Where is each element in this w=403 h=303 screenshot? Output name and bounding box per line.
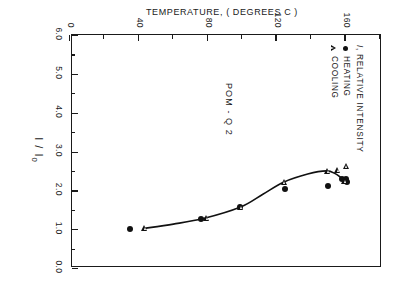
x-axis-minor-tick bbox=[72, 249, 76, 250]
x-axis-tick-label: 3.0 bbox=[54, 144, 64, 157]
data-point-cooling bbox=[238, 204, 244, 210]
figure-root: I, RELATIVE INTENSITY HEATING COOLING PO… bbox=[0, 0, 403, 303]
sample-annotation: POM - Q 2 bbox=[224, 83, 234, 136]
x-axis-minor-tick bbox=[72, 54, 76, 55]
x-axis-title: TEMPERATURE, ( DEGREES C ) bbox=[142, 7, 302, 17]
y-axis-tick bbox=[344, 35, 345, 41]
x-axis-minor-tick bbox=[72, 93, 76, 94]
x-axis-tick bbox=[72, 74, 78, 75]
x-axis-tick bbox=[72, 190, 78, 191]
legend-title-text: , RELATIVE INTENSITY bbox=[355, 48, 365, 153]
data-point-heating bbox=[325, 183, 331, 189]
data-point-cooling bbox=[141, 225, 147, 231]
y-axis-minor-tick bbox=[241, 35, 242, 39]
data-point-cooling bbox=[281, 179, 287, 185]
x-axis-title-text: TEMPERATURE, ( DEGREES C ) bbox=[146, 7, 298, 17]
x-axis-minor-tick bbox=[72, 132, 76, 133]
open-triangle-icon bbox=[330, 45, 337, 52]
legend-title: I, RELATIVE INTENSITY bbox=[354, 45, 366, 153]
y-axis-minor-tick bbox=[172, 35, 173, 39]
y-axis-minor-tick bbox=[379, 35, 380, 39]
x-axis-tick-label: 6.0 bbox=[54, 27, 64, 40]
legend: I, RELATIVE INTENSITY HEATING COOLING bbox=[328, 45, 366, 153]
x-axis-tick bbox=[72, 229, 78, 230]
y-axis-tick-label: 0 bbox=[66, 4, 76, 28]
x-axis-minor-tick bbox=[72, 210, 76, 211]
y-axis-minor-tick bbox=[103, 35, 104, 39]
y-axis-title-text: I / I0 bbox=[33, 137, 45, 163]
x-axis-tick bbox=[72, 113, 78, 114]
legend-label-heating: HEATING bbox=[340, 56, 352, 97]
rotated-chart-canvas: I, RELATIVE INTENSITY HEATING COOLING PO… bbox=[0, 0, 403, 303]
x-axis-tick-label: 5.0 bbox=[54, 66, 64, 79]
x-axis-tick-label: 2.0 bbox=[54, 183, 64, 196]
data-point-heating bbox=[282, 186, 288, 192]
filled-circle-icon bbox=[342, 45, 349, 52]
legend-item-cooling: COOLING bbox=[328, 45, 340, 153]
legend-label-cooling: COOLING bbox=[328, 56, 340, 99]
y-axis-minor-tick bbox=[310, 35, 311, 39]
y-axis-tick bbox=[275, 35, 276, 41]
x-axis-tick bbox=[72, 35, 78, 36]
data-point-cooling bbox=[334, 167, 340, 173]
x-axis-tick-label: 0.0 bbox=[54, 260, 64, 273]
x-axis-tick-label: 1.0 bbox=[54, 222, 64, 235]
data-point-heating bbox=[127, 226, 133, 232]
y-axis-tick-label: 160 bbox=[342, 4, 352, 28]
x-axis-tick bbox=[72, 268, 78, 269]
data-point-cooling bbox=[203, 215, 209, 221]
x-axis-tick-label: 4.0 bbox=[54, 105, 64, 118]
data-point-cooling bbox=[324, 168, 330, 174]
y-axis-tick bbox=[138, 35, 139, 41]
y-axis-title: I / I0 bbox=[30, 137, 45, 163]
legend-item-heating: HEATING bbox=[340, 45, 352, 153]
x-axis-minor-tick bbox=[72, 171, 76, 172]
data-point-cooling bbox=[341, 178, 347, 184]
y-axis-tick bbox=[69, 35, 70, 41]
plot-frame: I, RELATIVE INTENSITY HEATING COOLING PO… bbox=[71, 34, 381, 267]
y-axis-tick bbox=[207, 35, 208, 41]
data-point-cooling bbox=[343, 163, 349, 169]
x-axis-tick bbox=[72, 152, 78, 153]
